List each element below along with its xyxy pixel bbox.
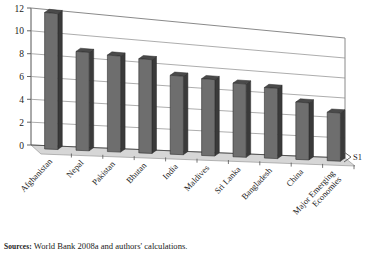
bar-chart-3d: 0 2 4 6 8 10 12 AfghanistanNepalPakistan… — [0, 0, 371, 238]
bar-china[interactable] — [296, 99, 314, 160]
bar-maldives[interactable] — [202, 75, 220, 156]
bar-side-face — [309, 100, 314, 160]
bar-bangladesh[interactable] — [264, 84, 282, 158]
bar-front-face — [202, 79, 215, 156]
category-label-pakistan: Pakistan — [90, 158, 118, 187]
category-label-bangladesh: Bangladesh — [239, 165, 274, 202]
bar-front-face — [233, 83, 246, 157]
bar-front-face — [296, 102, 309, 160]
bar-pakistan[interactable] — [107, 52, 125, 152]
y-tick-label-0: 0 — [19, 141, 24, 151]
bar-front-face — [107, 55, 120, 152]
bar-side-face — [89, 49, 94, 151]
bar-side-face — [246, 81, 251, 157]
category-label-afghanistan: Afghanistan — [18, 156, 54, 194]
bar-bhutan[interactable] — [139, 56, 157, 154]
bar-front-face — [264, 87, 277, 158]
legend: S1 — [344, 152, 362, 162]
bar-sri-lanka[interactable] — [233, 80, 251, 157]
y-tick-label-6: 6 — [19, 72, 24, 82]
bar-front-face — [139, 59, 152, 154]
category-label-india: India — [160, 161, 179, 181]
source-text: World Bank 2008a and authors' calculatio… — [34, 241, 188, 251]
bar-india[interactable] — [170, 72, 188, 155]
y-tick-label-8: 8 — [19, 49, 24, 59]
bar-front-face — [170, 75, 183, 154]
bar-side-face — [152, 57, 157, 154]
bar-afghanistan[interactable] — [45, 9, 63, 149]
bar-side-face — [183, 73, 188, 155]
bar-front-face — [76, 51, 89, 150]
category-label-nepal: Nepal — [64, 157, 86, 179]
bar-side-face — [340, 110, 345, 161]
y-tick-label-12: 12 — [15, 4, 25, 14]
category-label-sri-lanka: Sri Lanka — [212, 164, 242, 196]
bar-side-face — [121, 53, 126, 152]
category-label-bhutan: Bhutan — [124, 160, 149, 185]
legend-label-s1: S1 — [353, 152, 362, 162]
bar-side-face — [58, 11, 63, 150]
category-label-maldives: Maldives — [182, 162, 212, 193]
source-lead: Sources: — [4, 242, 32, 251]
bar-front-face — [327, 112, 340, 161]
bar-nepal[interactable] — [76, 48, 94, 151]
category-label-china: China — [284, 167, 305, 189]
y-axis-tick-labels: 0 2 4 6 8 10 12 — [15, 4, 25, 151]
bar-major-emerging-economies[interactable] — [327, 109, 345, 161]
y-axis-ticks — [27, 8, 31, 145]
y-tick-label-4: 4 — [19, 95, 24, 105]
bar-side-face — [278, 85, 283, 158]
y-tick-label-10: 10 — [15, 26, 25, 36]
x-axis-category-labels: AfghanistanNepalPakistanBhutanIndiaMaldi… — [18, 156, 344, 223]
chart-figure: 0 2 4 6 8 10 12 AfghanistanNepalPakistan… — [0, 0, 371, 255]
y-tick-label-2: 2 — [19, 118, 24, 128]
source-note: Sources: World Bank 2008a and authors' c… — [4, 241, 364, 252]
bar-side-face — [215, 76, 220, 156]
bar-front-face — [45, 12, 58, 149]
